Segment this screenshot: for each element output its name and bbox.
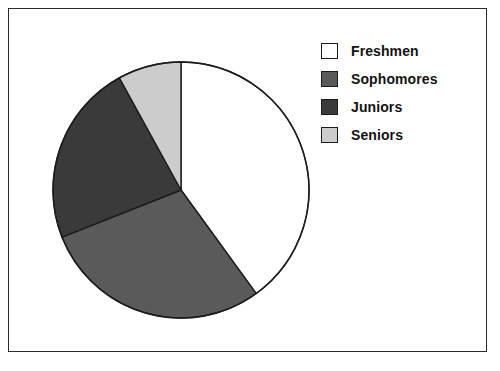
legend-swatch-seniors [321,127,338,143]
pie-chart-svg [45,54,317,326]
figure-frame: Freshmen Sophomores Juniors Seniors [8,8,487,352]
legend-swatch-juniors [321,99,338,115]
legend-label-sophomores: Sophomores [351,72,438,86]
legend-item-freshmen[interactable]: Freshmen [321,37,486,64]
legend-label-juniors: Juniors [351,100,402,114]
legend-label-seniors: Seniors [351,128,403,142]
pie-slice-group [53,62,309,318]
pie-chart-plot-area [45,54,317,326]
legend-item-juniors[interactable]: Juniors [321,93,486,120]
legend-item-sophomores[interactable]: Sophomores [321,65,486,92]
legend-label-freshmen: Freshmen [351,44,419,58]
legend-swatch-sophomores [321,71,338,87]
legend-item-seniors[interactable]: Seniors [321,121,486,148]
chart-legend: Freshmen Sophomores Juniors Seniors [321,37,486,149]
pie-chart-figure: Freshmen Sophomores Juniors Seniors [0,0,500,371]
legend-swatch-freshmen [321,43,338,59]
